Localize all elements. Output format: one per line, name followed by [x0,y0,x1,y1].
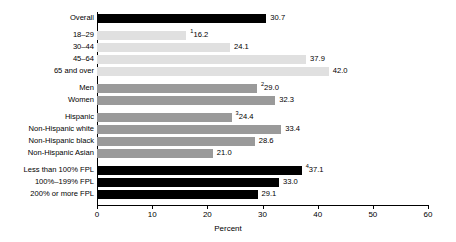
bar [97,67,329,76]
bar [97,31,186,40]
footnote-marker: 4 [306,163,309,169]
bar [97,55,306,64]
category-label: 30–44 [0,42,94,52]
category-label: Non-Hispanic black [0,136,94,146]
bar-row: Hispanic324.4 [0,113,456,122]
bar-row: Non-Hispanic black28.6 [0,137,456,146]
category-label: Men [0,83,94,93]
footnote-marker: 1 [190,28,193,34]
value-label: 28.6 [259,136,274,146]
x-tick-label: 10 [137,210,167,219]
x-tick-label: 20 [192,210,222,219]
y-axis-line [97,12,98,205]
bar-row: 100%–199% FPL33.0 [0,178,456,187]
category-label: 18–29 [0,30,94,40]
x-tick-label: 0 [82,210,112,219]
value-label: 42.0 [333,66,348,76]
bar [97,190,258,199]
value-label: 229.0 [261,83,279,93]
x-tick [97,205,98,209]
bar [97,84,257,93]
value-label: 33.4 [285,124,300,134]
bar-row: Women32.3 [0,96,456,105]
bar-row: Men229.0 [0,84,456,93]
footnote-marker: 2 [261,81,264,87]
x-tick [373,205,374,209]
value-label: 437.1 [306,165,324,175]
x-tick-label: 50 [358,210,388,219]
bar [97,14,266,23]
value-label: 30.7 [270,13,285,23]
category-label: Women [0,95,94,105]
bar [97,166,302,175]
bar-row: Less than 100% FPL437.1 [0,166,456,175]
bar-row: 200% or more FPL29.1 [0,190,456,199]
bar [97,149,213,158]
category-label: 100%–199% FPL [0,177,94,187]
category-label: Overall [0,13,94,23]
bar [97,43,230,52]
bar-row: 45–6437.9 [0,55,456,64]
bar-row: Non-Hispanic white33.4 [0,125,456,134]
bar-row: 30–4424.1 [0,43,456,52]
x-axis-title: Percent [0,224,456,233]
x-tick-label: 30 [248,210,278,219]
bar-row: 65 and over42.0 [0,67,456,76]
category-label: Non-Hispanic Asian [0,148,94,158]
bar-row: 18–29116.2 [0,31,456,40]
value-label: 37.9 [310,54,325,64]
category-label: 65 and over [0,66,94,76]
bar [97,113,232,122]
x-tick-label: 40 [303,210,333,219]
bar [97,125,281,134]
value-label: 324.4 [236,112,254,122]
value-label: 33.0 [283,177,298,187]
bar-row: Non-Hispanic Asian21.0 [0,149,456,158]
footnote-marker: 3 [236,110,239,116]
category-label: 200% or more FPL [0,189,94,199]
value-label: 21.0 [217,148,232,158]
bar [97,96,275,105]
bar-row: Overall30.7 [0,14,456,23]
x-tick [428,205,429,209]
value-label: 24.1 [234,42,249,52]
x-tick [207,205,208,209]
value-label: 116.2 [190,30,208,40]
category-label: Non-Hispanic white [0,124,94,134]
value-label: 29.1 [262,189,277,199]
x-tick [318,205,319,209]
bar [97,137,255,146]
bar [97,178,279,187]
x-tick-label: 60 [413,210,443,219]
x-tick [152,205,153,209]
category-label: Less than 100% FPL [0,165,94,175]
category-label: 45–64 [0,54,94,64]
category-label: Hispanic [0,112,94,122]
value-label: 32.3 [279,95,294,105]
bar-chart: 0102030405060 Percent Overall30.718–2911… [0,0,456,242]
x-tick [263,205,264,209]
